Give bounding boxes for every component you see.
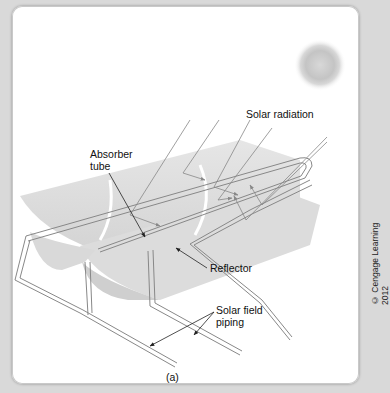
piping-pointer-2 [194, 312, 214, 335]
piping-pointer-1 [150, 312, 214, 346]
label-solar-field-piping: Solar field piping [216, 304, 263, 328]
copyright-credit: © Cengage Learning 2012 [370, 217, 390, 305]
label-solar-field-piping-line1: Solar field [216, 304, 263, 316]
sun-icon [294, 39, 346, 91]
figure-caption: (a) [166, 371, 179, 383]
label-reflector: Reflector [210, 262, 252, 274]
label-absorber-tube-line2: tube [90, 160, 133, 172]
label-solar-radiation: Solar radiation [246, 108, 314, 120]
label-absorber-tube: Absorber tube [90, 148, 133, 172]
label-solar-field-piping-line2: piping [216, 316, 263, 328]
label-absorber-tube-line1: Absorber [90, 148, 133, 160]
